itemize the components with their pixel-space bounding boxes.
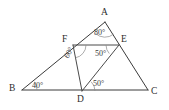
angle-label-D: 50° [93, 80, 104, 88]
vertex-label-A: A [101, 8, 108, 18]
segment-AC [105, 22, 148, 90]
vertex-label-D: D [77, 95, 84, 105]
vertex-label-C: C [151, 87, 157, 97]
angle-arc-E [106, 45, 109, 54]
angle-label-E: 50° [95, 50, 106, 58]
vertex-label-E: E [121, 35, 127, 45]
vertex-label-F: F [62, 35, 67, 45]
geometry-figure: A B C D E F 80° 40° 60° 50° 50° [0, 0, 169, 110]
segment-FD [73, 45, 82, 91]
angle-label-B: 40° [32, 82, 43, 90]
angle-arc-F [76, 45, 87, 58]
angle-label-A: 80° [94, 29, 105, 37]
figure-canvas [0, 0, 169, 110]
vertex-label-B: B [9, 84, 15, 94]
